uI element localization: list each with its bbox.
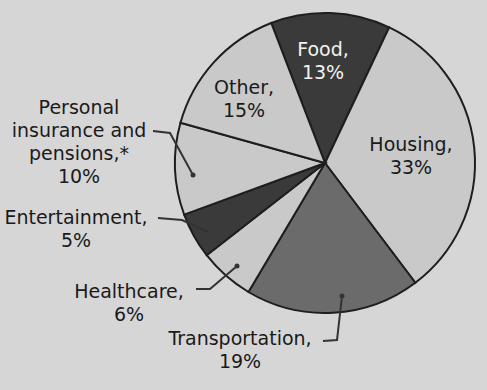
label-transportation-pct: 19% xyxy=(168,350,311,373)
leader-dot-personal xyxy=(191,173,196,178)
label-other-name: Other, xyxy=(214,76,274,99)
label-transportation: Transportation, 19% xyxy=(168,327,311,373)
label-entertainment-name: Entertainment, xyxy=(4,206,147,229)
label-healthcare-name: Healthcare, xyxy=(74,280,184,303)
label-entertainment: Entertainment, 5% xyxy=(4,206,147,252)
label-other: Other, 15% xyxy=(214,76,274,122)
label-other-pct: 15% xyxy=(214,99,274,122)
label-housing-pct: 33% xyxy=(369,156,452,179)
label-personal-line3: pensions,* xyxy=(12,142,147,165)
leader-dot-healthcare xyxy=(235,264,240,269)
label-healthcare: Healthcare, 6% xyxy=(74,280,184,326)
leader-dot-transportation xyxy=(340,294,345,299)
label-transportation-name: Transportation, xyxy=(168,327,311,350)
label-personal-insurance: Personal insurance and pensions,* 10% xyxy=(12,96,147,188)
label-healthcare-pct: 6% xyxy=(74,303,184,326)
label-entertainment-pct: 5% xyxy=(4,229,147,252)
label-personal-line2: insurance and xyxy=(12,119,147,142)
label-housing-name: Housing, xyxy=(369,133,452,156)
label-personal-line1: Personal xyxy=(12,96,147,119)
label-food-pct: 13% xyxy=(297,61,349,84)
label-housing: Housing, 33% xyxy=(369,133,452,179)
label-food: Food, 13% xyxy=(297,38,349,84)
label-food-name: Food, xyxy=(297,38,349,61)
label-personal-pct: 10% xyxy=(12,165,147,188)
